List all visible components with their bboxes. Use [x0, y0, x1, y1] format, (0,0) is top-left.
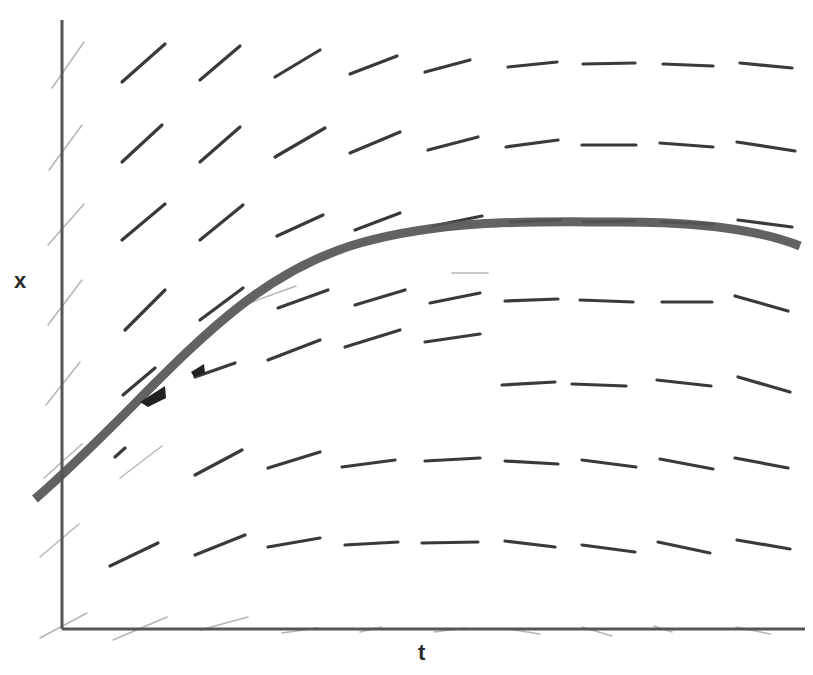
slope-segment	[350, 56, 397, 74]
faint-slope-segment	[40, 524, 79, 557]
slope-segment	[735, 296, 788, 311]
slope-segment	[660, 459, 713, 469]
slope-segment	[505, 541, 555, 547]
slope-segment	[737, 540, 790, 549]
slope-segment	[425, 458, 480, 461]
slope-segment	[278, 290, 328, 308]
horizontal-axis-label: t	[418, 640, 425, 666]
slope-segments-group	[110, 44, 795, 566]
solution-curve	[35, 222, 800, 499]
slope-segment	[345, 542, 398, 545]
slope-segment	[195, 535, 245, 555]
slope-segment	[505, 299, 558, 301]
faint-slope-segment	[120, 446, 162, 478]
slope-segment	[195, 450, 242, 475]
slope-segment	[355, 213, 400, 230]
slope-segment	[110, 543, 158, 566]
slope-segment	[660, 143, 713, 147]
slope-segment	[508, 62, 557, 67]
slope-segment	[430, 293, 480, 303]
slope-segment	[350, 132, 400, 153]
slope-segment	[115, 448, 125, 457]
slope-segment	[505, 461, 558, 464]
slope-segment	[200, 46, 240, 80]
slope-segment	[580, 300, 633, 302]
slope-segment	[657, 380, 711, 386]
slope-segment	[277, 215, 323, 236]
slope-field-figure: x t	[0, 0, 813, 675]
slope-segment	[355, 290, 405, 305]
slope-segment	[422, 542, 478, 543]
slope-segment	[275, 128, 325, 157]
slope-segment	[740, 63, 792, 68]
slope-segment	[125, 290, 165, 330]
slope-segment	[425, 60, 470, 72]
slope-segment	[200, 205, 243, 240]
slope-segment	[582, 460, 636, 467]
vertical-axis-label: x	[14, 268, 26, 294]
slope-segment	[582, 545, 635, 552]
slope-segment	[737, 142, 795, 151]
slope-segment	[735, 458, 788, 468]
faint-slope-segment	[48, 280, 82, 325]
slope-segment	[122, 204, 165, 240]
slope-segment	[268, 340, 320, 360]
slope-segment	[583, 63, 635, 64]
slope-segment	[658, 542, 710, 553]
slope-segment	[122, 125, 162, 162]
slope-segment	[275, 50, 320, 77]
slope-segment	[200, 127, 240, 162]
slope-segment	[428, 137, 478, 150]
slope-segment	[738, 377, 790, 392]
faint-segments-group	[40, 42, 770, 640]
faint-slope-segment	[52, 42, 84, 88]
faint-slope-segment	[48, 204, 84, 245]
slope-segment	[345, 330, 400, 347]
slope-segment	[122, 44, 165, 82]
slope-segment	[425, 334, 480, 342]
slope-segment	[268, 538, 320, 547]
slope-segment	[502, 382, 555, 385]
slope-segment	[738, 220, 792, 227]
slope-field-canvas	[0, 0, 813, 675]
slope-segment	[572, 384, 626, 386]
slope-segment	[342, 460, 395, 467]
faint-slope-segment	[49, 125, 82, 170]
slope-segment	[268, 452, 320, 468]
slope-segment	[663, 64, 713, 66]
slope-segment	[506, 140, 558, 147]
